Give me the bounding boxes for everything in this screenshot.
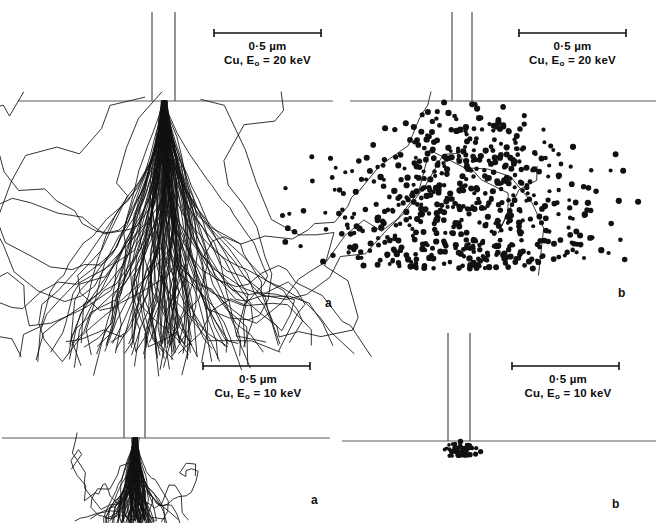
beam-lines-bottom-left — [124, 333, 145, 438]
beam-lines-top-left — [152, 12, 175, 101]
electron-trajectories-bottom-left — [71, 433, 198, 523]
beam-condition-bottom-right: Cu, Eo = 10 keV — [488, 386, 648, 404]
panel-letter-top-left: a — [325, 296, 332, 310]
panel-letter-bottom-right: b — [612, 497, 619, 511]
scale-bar-bottom-right — [511, 360, 621, 374]
panel-top-right: 0·5 µm Cu, Eo = 20 keV b — [340, 0, 661, 330]
beam-lines-bottom-right — [448, 333, 470, 441]
scale-bar-label-top-right: 0·5 µm Cu, Eo = 20 keV — [495, 40, 650, 71]
xray-generation-sites-bottom-right — [443, 439, 484, 458]
panel-letter-top-right: b — [618, 286, 625, 300]
scale-bar-value-top-left: 0·5 µm — [190, 40, 345, 53]
beam-lines-top-right — [452, 12, 472, 101]
scale-bar-label-bottom-right: 0·5 µm Cu, Eo = 10 keV — [488, 373, 648, 404]
scale-bar-value-top-right: 0·5 µm — [495, 40, 650, 53]
panel-top-left: 0·5 µm Cu, Eo = 20 keV a — [0, 0, 340, 330]
beam-condition-top-left: Cu, Eo = 20 keV — [190, 53, 345, 71]
panel-bottom-right: 0·5 µm Cu, Eo = 10 keV b — [340, 330, 661, 523]
panel-letter-bottom-left: a — [311, 493, 318, 507]
scale-bar-value-bottom-left: 0·5 µm — [178, 373, 338, 386]
panel-bottom-right-plot — [340, 330, 661, 523]
beam-condition-top-right: Cu, Eo = 20 keV — [495, 53, 650, 71]
panel-bottom-left: 0·5 µm Cu, Eo = 10 keV a — [0, 330, 340, 523]
scale-bar-value-bottom-right: 0·5 µm — [488, 373, 648, 386]
beam-condition-bottom-left: Cu, Eo = 10 keV — [178, 386, 338, 404]
scale-bar-bottom-left — [202, 360, 312, 374]
figure-monte-carlo-simulation: 0·5 µm Cu, Eo = 20 keV a 0·5 µm Cu, Eo =… — [0, 0, 661, 523]
scale-bar-top-left — [213, 27, 323, 41]
scale-bar-top-right — [518, 27, 628, 41]
scale-bar-label-bottom-left: 0·5 µm Cu, Eo = 10 keV — [178, 373, 338, 404]
scale-bar-label-top-left: 0·5 µm Cu, Eo = 20 keV — [190, 40, 345, 71]
panel-bottom-left-plot — [0, 330, 340, 523]
